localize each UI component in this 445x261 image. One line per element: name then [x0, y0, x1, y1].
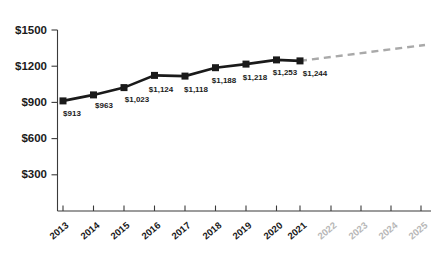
- x-tick-label-2014: 2014: [78, 219, 102, 241]
- point-label-2017: $1,118: [184, 85, 209, 94]
- x-tick-marks: [63, 206, 421, 212]
- marker-2018: [212, 64, 219, 71]
- x-tick-label-2024: 2024: [376, 219, 400, 241]
- x-tick-labels: 2013 2014 2015 2016 2017 2018 2019 2020 …: [47, 219, 430, 241]
- x-tick-label-2017: 2017: [169, 220, 192, 242]
- marker-2013: [60, 97, 67, 104]
- point-label-2020: $1,253: [273, 68, 298, 77]
- y-tick-label-600: $600: [21, 132, 47, 144]
- x-tick-label-2022: 2022: [315, 220, 338, 242]
- x-tick-label-2025: 2025: [406, 219, 430, 241]
- point-label-2021: $1,244: [303, 69, 328, 78]
- y-tick-label-1500: $1500: [15, 24, 47, 36]
- point-label-2019: $1,218: [243, 73, 268, 82]
- chart-container: $1500 $1200 $900 $600 $300: [0, 0, 445, 261]
- x-tick-label-2019: 2019: [230, 220, 253, 242]
- marker-2016: [151, 72, 158, 79]
- marker-2020: [273, 56, 280, 63]
- y-axis-group: $1500 $1200 $900 $600 $300: [15, 24, 57, 211]
- line-chart: $1500 $1200 $900 $600 $300: [0, 0, 445, 261]
- forecast-dashed-line: [300, 45, 425, 61]
- y-tick-label-300: $300: [21, 168, 47, 180]
- marker-2017: [182, 73, 189, 80]
- x-tick-label-2020: 2020: [261, 220, 284, 242]
- y-tick-label-900: $900: [21, 96, 47, 108]
- point-label-2018: $1,188: [212, 76, 237, 85]
- point-label-2015: $1,023: [125, 95, 150, 104]
- marker-2014: [90, 91, 97, 98]
- x-tick-label-2018: 2018: [200, 220, 223, 242]
- series-forecast-group: [300, 45, 425, 61]
- x-tick-label-2023: 2023: [346, 220, 369, 242]
- marker-2015: [121, 84, 128, 91]
- x-tick-label-2015: 2015: [108, 219, 132, 241]
- x-axis-group: 2013 2014 2015 2016 2017 2018 2019 2020 …: [47, 206, 431, 242]
- marker-2019: [243, 61, 250, 68]
- y-tick-labels: $1500 $1200 $900 $600 $300: [15, 24, 47, 181]
- point-label-2013: $913: [63, 109, 81, 118]
- point-label-2014: $963: [95, 101, 113, 110]
- x-tick-label-2016: 2016: [139, 220, 162, 242]
- marker-2021: [297, 57, 304, 64]
- x-tick-label-2013: 2013: [47, 220, 70, 242]
- y-tick-label-1200: $1200: [15, 60, 47, 72]
- y-tick-marks: [52, 30, 58, 175]
- point-label-2016: $1,124: [149, 85, 174, 94]
- x-tick-label-2021: 2021: [285, 219, 309, 241]
